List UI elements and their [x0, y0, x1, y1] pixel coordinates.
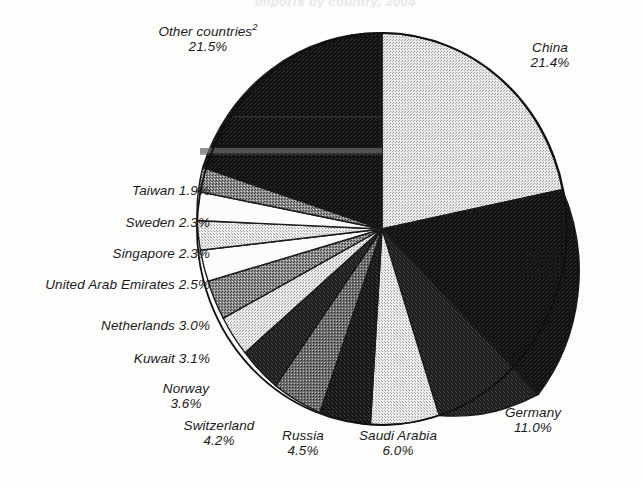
label-norway-pct: 3.6% — [140, 396, 232, 411]
pie-chart: Other countries2 21.5% China 21.4% Japan… — [0, 0, 643, 486]
label-china-pct: 21.4% — [500, 55, 600, 70]
label-other-countries-pct: 21.5% — [118, 39, 298, 54]
label-taiwan: Taiwan 1.9% — [62, 183, 210, 198]
label-japan-name: Japan — [524, 250, 561, 265]
label-saudi-arabia: Saudi Arabia 6.0% — [338, 428, 458, 458]
label-japan: Japan 12.6% — [524, 250, 634, 280]
label-switzerland-pct: 4.2% — [164, 433, 274, 448]
label-other-countries-footnote: 2 — [252, 21, 257, 32]
label-saudi-arabia-name: Saudi Arabia — [359, 428, 437, 443]
label-norway: Norway 3.6% — [140, 381, 232, 411]
label-sweden: Sweden 2.3% — [54, 215, 210, 230]
label-switzerland-name: Switzerland — [184, 418, 255, 433]
label-switzerland: Switzerland 4.2% — [164, 418, 274, 448]
label-saudi-arabia-pct: 6.0% — [338, 443, 458, 458]
label-other-countries-name: Other countries — [158, 24, 252, 39]
label-germany-pct: 11.0% — [478, 420, 588, 435]
label-japan-pct: 12.6% — [524, 265, 634, 280]
label-singapore: Singapore 2.3% — [42, 246, 210, 261]
label-other-countries: Other countries2 21.5% — [118, 22, 298, 54]
label-netherlands: Netherlands 3.0% — [36, 318, 210, 333]
label-germany: Germany 11.0% — [478, 405, 588, 435]
label-united-arab-emirates: United Arab Emirates 2.5% — [0, 277, 210, 292]
label-kuwait: Kuwait 3.1% — [60, 351, 210, 366]
label-russia-name: Russia — [282, 428, 324, 443]
label-china-name: China — [532, 40, 568, 55]
pie-slices — [197, 33, 579, 425]
label-china: China 21.4% — [500, 40, 600, 70]
label-germany-name: Germany — [505, 405, 561, 420]
label-norway-name: Norway — [163, 381, 209, 396]
